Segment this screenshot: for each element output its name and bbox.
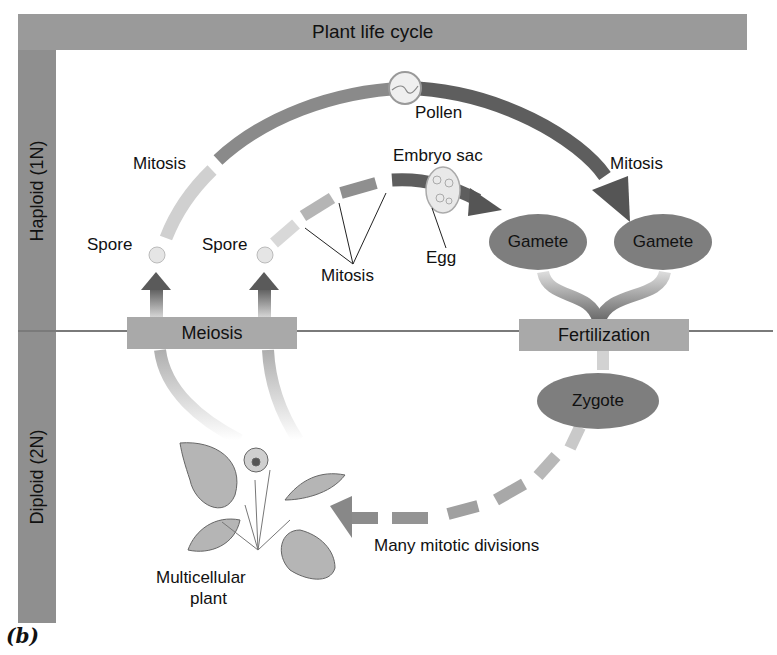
embryo-sac-label: Embryo sac — [393, 146, 483, 166]
diploid-bar: Diploid (2N) — [18, 331, 56, 623]
mitosis-left-label: Mitosis — [133, 154, 186, 174]
diagram-title: Plant life cycle — [312, 21, 433, 43]
fertilization-box: Fertilization — [519, 319, 689, 351]
title-bar: Plant life cycle — [18, 14, 747, 50]
embryo-sac-icon — [426, 167, 460, 213]
spore-left-icon — [149, 247, 165, 263]
spore-right-icon — [257, 247, 273, 263]
mitotic-division-segments — [330, 427, 580, 538]
figure-label: (b) — [6, 624, 39, 648]
spore-right-label: Spore — [202, 235, 247, 255]
egg-label: Egg — [426, 248, 456, 268]
zygote: Zygote — [537, 373, 659, 429]
diploid-label: Diploid (2N) — [27, 429, 48, 524]
mitosis-right-label: Mitosis — [610, 154, 663, 174]
gamete-right: Gamete — [614, 214, 712, 270]
arrow-head-embryo — [468, 188, 502, 216]
meiosis-box: Meiosis — [127, 317, 297, 349]
haploid-bar: Haploid (1N) — [18, 50, 56, 331]
many-mitotic-divisions-label: Many mitotic divisions — [374, 536, 539, 556]
mitosis-bottom-label: Mitosis — [321, 266, 374, 286]
violet-plant-icon — [180, 443, 345, 579]
spore-left-label: Spore — [87, 235, 132, 255]
plant-label: plant — [190, 589, 227, 609]
gamete-left: Gamete — [489, 214, 587, 270]
haploid-label: Haploid (1N) — [27, 140, 48, 241]
meiosis-up-arrows — [141, 272, 279, 318]
pollen-label: Pollen — [415, 103, 462, 123]
arrow-head-pollen — [592, 176, 630, 222]
pollen-icon — [389, 72, 421, 104]
multicellular-label: Multicellular — [156, 568, 246, 588]
